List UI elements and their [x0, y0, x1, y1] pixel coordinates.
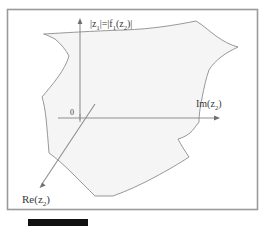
real-axis-label-head: Re(z: [22, 193, 43, 206]
real-axis-label-tail: ): [46, 193, 50, 206]
vertical-axis-label-rhs-tail: )|: [127, 18, 132, 30]
redacted-caption-bar: [28, 219, 88, 226]
imaginary-axis-label-head: Im(z: [196, 98, 215, 110]
figure-root: 0 |z1|=|f1(z2)| Im(z2) Re(z2): [0, 0, 269, 230]
figure-canvas: 0 |z1|=|f1(z2)| Im(z2) Re(z2): [0, 0, 269, 230]
imaginary-axis-label-tail: ): [218, 98, 221, 110]
origin-label: 0: [70, 108, 74, 117]
imaginary-axis-label: Im(z2): [196, 98, 221, 111]
